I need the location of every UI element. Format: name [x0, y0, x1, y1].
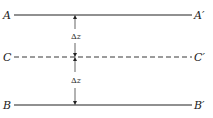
line-c-group: C C′: [3, 51, 205, 64]
label-c-prime: C′: [194, 51, 205, 64]
label-c: C: [3, 51, 12, 64]
dimension-a-c: Δz: [71, 17, 82, 55]
delta-z-label-lower: Δz: [71, 76, 82, 85]
layer-diagram: A A′ C C′ B B′ Δz Δz: [0, 0, 213, 118]
label-b: B: [2, 99, 11, 112]
label-a: A: [2, 9, 11, 22]
line-a-group: A A′: [2, 9, 205, 22]
label-b-prime: B′: [193, 99, 205, 112]
label-a-prime: A′: [193, 9, 205, 22]
dimension-c-b: Δz: [71, 59, 82, 103]
line-b-group: B B′: [2, 99, 205, 112]
delta-z-label-upper: Δz: [71, 32, 82, 41]
